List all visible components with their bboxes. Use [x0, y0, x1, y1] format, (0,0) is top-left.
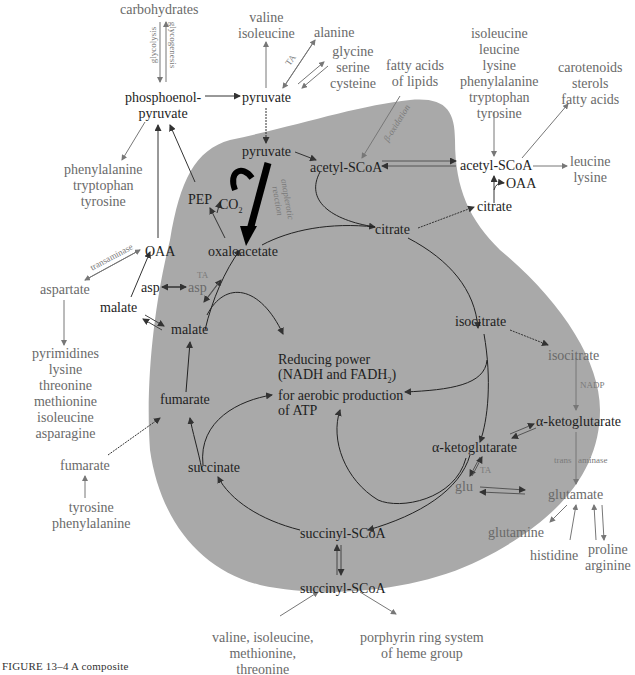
label-asp-outer: asp [141, 280, 160, 296]
label-succinyl-scoa-inner: succinyl-SCoA [300, 526, 386, 542]
figure-caption: FIGURE 13–4 A composite [2, 660, 129, 672]
label-glu: glu [455, 479, 473, 495]
label-phosphoenolpyruvate-outer: phosphoenol- pyruvate [125, 90, 201, 122]
label-alpha-ketoglutarate-outer: α-ketoglutarate [536, 414, 621, 430]
label-alpha-ketoglutarate-inner: α-ketoglutarate [432, 440, 517, 456]
glycolysis-arrows [160, 22, 166, 82]
reducing-power-block: Reducing power (NADH and FADH2) for aero… [278, 352, 403, 418]
label-succinyl-scoa-outer: succinyl-SCoA [300, 581, 386, 597]
label-citrate-outer: citrate [477, 199, 512, 215]
co2-text: CO [219, 197, 238, 212]
label-glycine-serine-cysteine: glycine serine cysteine [330, 44, 376, 92]
label-glycolysis: glycolysis [148, 27, 158, 64]
label-oxaloacetate: oxaloacetate [208, 244, 278, 260]
label-glycogenesis: glycogenesis [168, 22, 178, 69]
label-ta-glu: TA [480, 465, 491, 475]
label-trans: trans [554, 455, 572, 465]
label-fatty-acids-of-lipids: fatty acids of lipids [386, 58, 444, 90]
label-aspartate: aspartate [40, 282, 90, 298]
label-glutamine: glutamine [488, 525, 544, 541]
metabolic-map-canvas [0, 0, 635, 675]
label-fumarate-inner: fumarate [160, 392, 210, 408]
label-citrate-inner: citrate [375, 222, 410, 238]
label-nadp: NADP [580, 380, 605, 390]
label-co2: CO2 [219, 197, 242, 219]
reducing-power-line2: (NADH and FADH2) [278, 367, 403, 388]
label-porphyrin-heme: porphyrin ring system of heme group [360, 630, 484, 662]
label-valine-isoleucine-methionine-threonine: valine, isoleucine, methionine, threonin… [212, 630, 313, 675]
label-carbohydrates: carbohydrates [120, 2, 199, 18]
label-isocitrate-inner: isocitrate [455, 314, 506, 330]
label-glutamate: glutamate [548, 487, 603, 503]
reducing-power-line3: for aerobic production [278, 388, 403, 403]
co2-subscript: 2 [238, 206, 242, 215]
label-oaa-right: OAA [506, 176, 536, 192]
label-proline-arginine: proline arginine [585, 542, 631, 574]
label-isocitrate-outer: isocitrate [548, 348, 599, 364]
label-tyrosine-phenylalanine: tyrosine phenylalanine [52, 500, 131, 532]
label-leucine-lysine: leucine lysine [570, 154, 610, 186]
label-fumarate-outer: fumarate [60, 458, 110, 474]
label-aminase: aminase [578, 455, 608, 465]
label-pep-inner: PEP [188, 192, 212, 208]
label-malate-outer: malate [100, 300, 137, 316]
label-oaa-left: OAA [145, 244, 175, 260]
label-histidine: histidine [530, 548, 578, 564]
label-carotenoids-sterols: carotenoids sterols fatty acids [558, 60, 623, 108]
label-aa-to-acetyl: isoleucine leucine lysine phenylalanine … [460, 26, 539, 122]
reducing-power-line1: Reducing power [278, 352, 403, 367]
label-valine-isoleucine: valine isoleucine [238, 10, 295, 42]
label-succinate: succinate [188, 460, 240, 476]
label-pyruvate-inner: pyruvate [242, 144, 291, 160]
label-acetyl-scoa-inner: acetyl-SCoA [310, 160, 382, 176]
reducing-power-text: (NADH and FADH [278, 367, 387, 382]
reducing-power-line4: of ATP [278, 403, 403, 418]
label-aromatic-amino-acids: phenylalanine tryptophan tyrosine [64, 162, 143, 210]
label-pyruvate-outer: pyruvate [242, 90, 291, 106]
label-malate-inner: malate [171, 322, 208, 338]
label-asp-inner: asp [188, 280, 207, 296]
label-acetyl-scoa-outer: acetyl-SCoA [460, 158, 532, 174]
label-ta-asp: TA [197, 270, 208, 280]
label-aspartate-products: pyrimidines lysine threonine methionine … [32, 346, 99, 442]
label-alanine: alanine [314, 25, 354, 41]
reducing-power-paren: ) [391, 367, 396, 382]
